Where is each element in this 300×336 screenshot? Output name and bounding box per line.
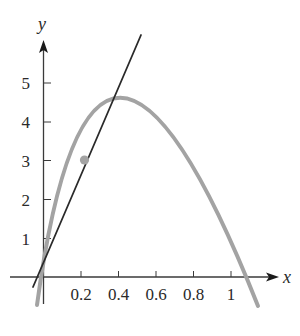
x-tick-label: 0.6 <box>145 285 166 304</box>
y-tick-label: 4 <box>22 113 31 132</box>
chart: x y 0.2 0.4 0.6 0.8 1 1 2 3 4 5 <box>0 0 300 336</box>
x-tick-label: 0.2 <box>70 285 91 304</box>
y-axis-label: y <box>36 14 46 34</box>
y-tick-label: 3 <box>22 152 31 171</box>
x-tick-label: 0.4 <box>108 285 130 304</box>
y-tick-label: 2 <box>22 191 31 210</box>
x-tick-labels: 0.2 0.4 0.6 0.8 1 <box>70 285 235 304</box>
y-tick-label: 5 <box>22 74 31 93</box>
y-tick-label: 1 <box>22 230 31 249</box>
x-axis-label: x <box>282 267 291 287</box>
x-ticks <box>81 271 231 277</box>
x-tick-label: 0.8 <box>183 285 204 304</box>
tangency-point <box>80 155 89 164</box>
y-tick-labels: 1 2 3 4 5 <box>22 74 31 249</box>
y-ticks <box>44 83 52 239</box>
x-tick-label: 1 <box>227 285 236 304</box>
